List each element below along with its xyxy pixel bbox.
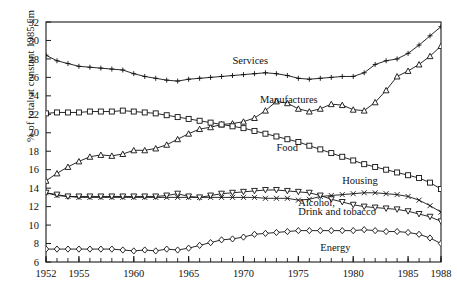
series-label-services: Services bbox=[233, 55, 269, 66]
chart-plot-area: 6810121416182022242628303219521955196019… bbox=[0, 0, 457, 290]
data-point bbox=[241, 126, 246, 131]
data-point bbox=[153, 248, 158, 254]
data-point bbox=[65, 61, 70, 66]
x-axis-tick-label: 1988 bbox=[431, 268, 452, 279]
series-alcohol-drink-and-tobacco bbox=[43, 188, 444, 225]
data-point bbox=[219, 122, 224, 127]
data-point bbox=[186, 131, 192, 136]
data-point bbox=[252, 115, 258, 120]
data-point bbox=[329, 151, 334, 156]
data-point bbox=[394, 228, 399, 234]
data-point bbox=[296, 228, 301, 234]
data-point bbox=[43, 178, 49, 183]
data-point bbox=[362, 162, 367, 167]
data-point bbox=[428, 180, 433, 185]
data-point bbox=[120, 108, 125, 113]
data-point bbox=[131, 71, 136, 76]
data-point bbox=[153, 111, 158, 116]
data-point bbox=[44, 53, 49, 58]
data-point bbox=[142, 110, 147, 115]
data-point bbox=[361, 227, 366, 233]
data-point bbox=[416, 231, 421, 237]
x-axis-tick-label: 1975 bbox=[288, 268, 309, 279]
data-point bbox=[54, 110, 59, 115]
data-point bbox=[54, 246, 59, 252]
data-point bbox=[417, 198, 422, 203]
data-point bbox=[340, 228, 345, 234]
data-point bbox=[395, 56, 400, 61]
data-point bbox=[263, 131, 268, 136]
data-point bbox=[120, 68, 125, 73]
data-point bbox=[427, 235, 432, 241]
y-axis-tick-label: 20 bbox=[29, 127, 40, 138]
data-point bbox=[383, 228, 388, 234]
data-point bbox=[76, 246, 81, 252]
data-point bbox=[340, 154, 345, 159]
series-label-energy: Energy bbox=[320, 242, 351, 253]
data-point bbox=[65, 164, 71, 169]
data-point bbox=[87, 109, 92, 114]
y-axis-tick-label: 28 bbox=[29, 54, 40, 65]
data-point bbox=[241, 72, 246, 77]
data-point bbox=[351, 158, 356, 163]
data-point bbox=[208, 120, 213, 125]
data-point bbox=[65, 246, 70, 252]
series-label-alcohol-drink-and-tobacco-line2: Drink and tobacco bbox=[298, 206, 376, 217]
data-point bbox=[186, 116, 191, 121]
y-axis-tick-label: 12 bbox=[29, 201, 40, 212]
data-point bbox=[263, 70, 268, 75]
data-point bbox=[219, 237, 224, 243]
y-axis-tick-label: 22 bbox=[29, 109, 40, 120]
data-point bbox=[252, 71, 257, 76]
data-point bbox=[109, 67, 114, 72]
data-point bbox=[76, 64, 81, 69]
y-axis-tick-label: 14 bbox=[29, 183, 40, 194]
data-point bbox=[131, 109, 136, 114]
data-point bbox=[427, 214, 433, 219]
data-point bbox=[230, 124, 235, 129]
data-point bbox=[439, 187, 444, 192]
y-axis-tick-label: 26 bbox=[29, 72, 40, 83]
data-point bbox=[109, 246, 114, 252]
data-point bbox=[219, 74, 224, 79]
data-point bbox=[164, 113, 169, 118]
data-point bbox=[417, 176, 422, 181]
data-point bbox=[175, 79, 180, 84]
data-point bbox=[263, 230, 268, 236]
data-point bbox=[295, 106, 301, 111]
series-services bbox=[44, 24, 444, 83]
series-label-manufactures: Manufactures bbox=[260, 94, 318, 105]
y-axis-tick-label: 24 bbox=[29, 90, 40, 101]
data-point bbox=[329, 75, 334, 80]
data-point bbox=[395, 170, 400, 175]
x-axis-tick-label: 1955 bbox=[68, 268, 89, 279]
data-point bbox=[285, 228, 290, 234]
series-energy bbox=[43, 227, 443, 254]
data-point bbox=[274, 229, 279, 235]
x-axis-tick-label: 1970 bbox=[233, 268, 254, 279]
data-point bbox=[241, 234, 246, 240]
data-point bbox=[175, 115, 180, 120]
series-label-food: Food bbox=[276, 142, 298, 153]
data-point bbox=[142, 74, 147, 79]
data-point bbox=[307, 228, 312, 234]
data-point bbox=[197, 76, 202, 81]
data-point bbox=[405, 68, 411, 73]
data-point bbox=[120, 151, 126, 156]
data-point bbox=[87, 246, 92, 252]
y-axis-tick-label: 10 bbox=[29, 220, 40, 231]
data-point bbox=[109, 109, 114, 114]
line-chart: % of total at constant 1985 £m 681012141… bbox=[0, 0, 457, 290]
data-point bbox=[351, 228, 356, 234]
data-point bbox=[230, 73, 235, 78]
data-point bbox=[318, 147, 323, 152]
data-point bbox=[252, 128, 257, 133]
data-point bbox=[340, 74, 345, 79]
data-point bbox=[307, 77, 312, 82]
data-point bbox=[76, 158, 82, 163]
data-point bbox=[230, 236, 235, 242]
x-axis-tick-label: 1960 bbox=[123, 268, 144, 279]
data-point bbox=[428, 203, 433, 208]
data-point bbox=[329, 228, 334, 234]
y-axis-tick-label: 30 bbox=[29, 35, 40, 46]
